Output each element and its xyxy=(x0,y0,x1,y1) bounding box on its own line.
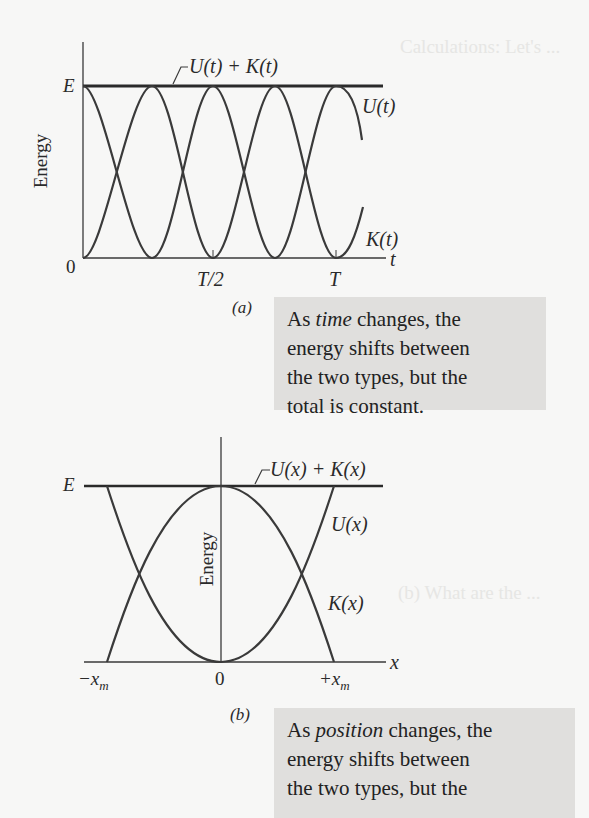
tick-label-neg-xm: −xm xyxy=(78,668,109,694)
y-axis-label-b: Energy xyxy=(196,524,218,594)
k-curve-b xyxy=(107,486,334,662)
figure-a-chart xyxy=(0,0,589,290)
total-label-b: U(x) + K(x) xyxy=(270,458,366,481)
x-axis-var-a: t xyxy=(390,248,396,271)
tick-label-zero-a: 0 xyxy=(66,256,76,278)
total-label-a: U(t) + K(t) xyxy=(189,55,278,78)
figure-b-sublabel: (b) xyxy=(230,705,250,725)
k-label-b: K(x) xyxy=(328,592,364,615)
tick-label-e-a: E xyxy=(63,75,75,97)
note-box-a: As time changes, the energy shifts betwe… xyxy=(274,297,546,410)
note-b-emphasis: position xyxy=(316,718,384,742)
tick-label-t-half: T/2 xyxy=(197,268,224,291)
u-curve-b-exact xyxy=(107,486,334,662)
tick-label-zero-b: 0 xyxy=(215,668,225,690)
note-box-b: As position changes, the energy shifts b… xyxy=(274,708,575,818)
note-a-line-4: total is constant. xyxy=(287,392,530,421)
y-axis-label-a: Energy xyxy=(30,126,52,196)
note-a-emphasis: time xyxy=(316,307,352,331)
note-b-line-1: As position changes, the xyxy=(287,716,559,745)
tick-label-pos-xm: +xm xyxy=(319,668,350,694)
tick-label-e-b: E xyxy=(63,474,75,496)
tick-label-t: T xyxy=(329,268,340,291)
ghost-text-2: (b) What are the ... xyxy=(398,582,541,604)
note-b-line-2: energy shifts between xyxy=(287,745,559,774)
note-a-line-2: energy shifts between xyxy=(287,334,530,363)
u-label-a: U(t) xyxy=(362,95,395,118)
k-label-a: K(t) xyxy=(366,228,398,251)
note-a-line-1: As time changes, the xyxy=(287,305,530,334)
u-label-b: U(x) xyxy=(331,513,368,536)
figure-a-sublabel: (a) xyxy=(232,298,252,318)
note-a-line-3: the two types, but the xyxy=(287,363,530,392)
note-b-line-3: the two types, but the xyxy=(287,774,559,803)
x-axis-var-b: x xyxy=(390,651,399,674)
